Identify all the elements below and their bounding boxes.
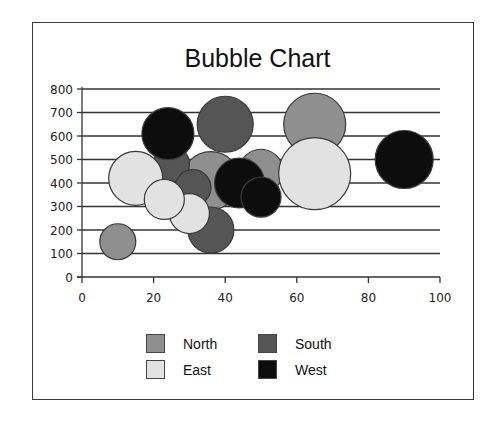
y-tick-label: 600 — [50, 130, 73, 144]
y-tick-label: 100 — [50, 247, 73, 261]
legend-label-west: West — [295, 362, 327, 378]
bubble-west — [241, 177, 281, 217]
legend-swatch-north — [146, 334, 165, 353]
bubble-east — [144, 179, 184, 219]
x-tick-label: 60 — [289, 291, 304, 305]
legend-swatch-west — [258, 360, 277, 379]
y-tick-label: 400 — [50, 177, 73, 191]
legend-item-north: North — [146, 334, 217, 353]
y-tick-label: 800 — [50, 83, 73, 97]
bubbles — [100, 93, 433, 260]
legend-item-east: East — [146, 360, 211, 379]
bubble-west — [375, 131, 433, 189]
legend-swatch-south — [258, 334, 277, 353]
bubble-west — [142, 108, 194, 160]
x-tick-label: 40 — [218, 291, 233, 305]
bubble-east — [279, 138, 351, 210]
x-tick-label: 20 — [146, 291, 161, 305]
legend-swatch-east — [146, 360, 165, 379]
bubble-south — [197, 96, 253, 152]
legend-item-south: South — [258, 334, 332, 353]
y-tick-label: 500 — [50, 153, 73, 167]
x-tick-label: 80 — [361, 291, 376, 305]
legend-label-south: South — [295, 336, 332, 352]
y-tick-label: 200 — [50, 224, 73, 238]
x-tick-label: 100 — [429, 291, 452, 305]
legend-label-north: North — [183, 336, 217, 352]
y-tick-label: 300 — [50, 200, 73, 214]
y-tick-label: 0 — [65, 271, 73, 285]
bubble-north — [100, 224, 136, 260]
legend: North South East West — [146, 334, 366, 384]
legend-label-east: East — [183, 362, 211, 378]
legend-item-west: West — [258, 360, 327, 379]
y-tick-label: 700 — [50, 106, 73, 120]
x-tick-label: 0 — [78, 291, 86, 305]
